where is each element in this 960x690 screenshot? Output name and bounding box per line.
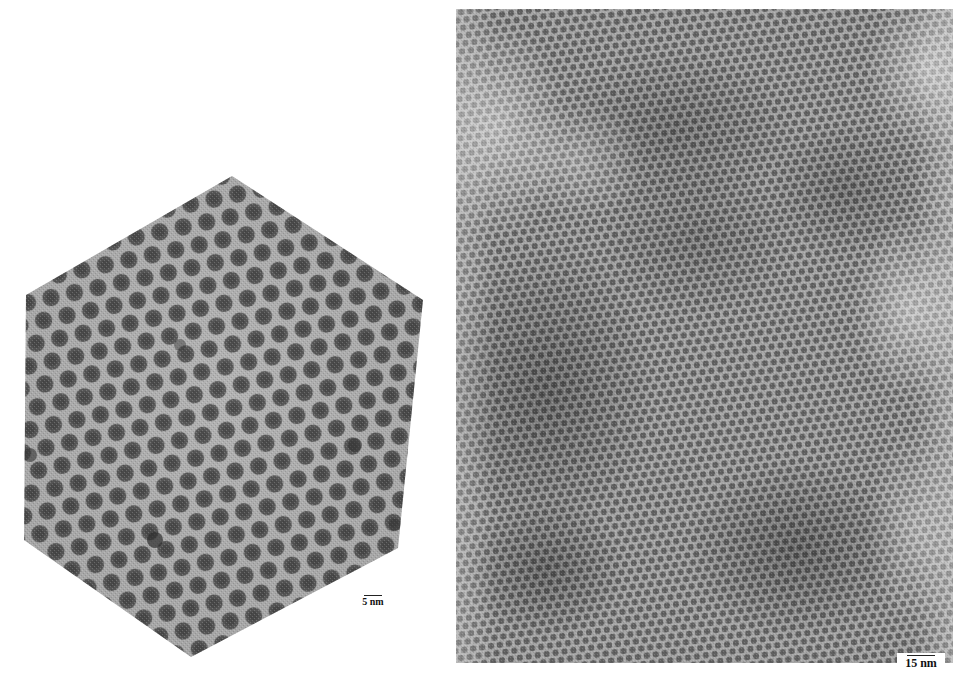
- hexagonal-lattice-image: [0, 0, 450, 690]
- superlattice-image: [456, 9, 953, 663]
- tem-micrograph-large-area: 15 nm: [456, 9, 953, 663]
- scale-bar-15nm: 15 nm: [897, 653, 945, 672]
- tem-micrograph-hexagonal: 5 nm: [0, 0, 450, 690]
- scale-bar-label: 15 nm: [905, 656, 937, 670]
- scale-bar-5nm: 5 nm: [358, 593, 388, 609]
- scale-bar-label: 5 nm: [362, 596, 383, 607]
